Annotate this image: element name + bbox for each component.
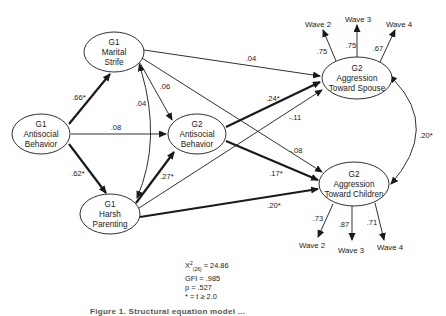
coef-marital-harsh: .04 xyxy=(136,99,147,108)
coef-antisocial-marital: .66* xyxy=(72,93,86,102)
coef-harsh-spouse: -.11 xyxy=(289,113,302,122)
svg-text:Behavior: Behavior xyxy=(181,140,214,149)
coef-marital-children: -.08 xyxy=(289,146,302,155)
svg-text:Behavior: Behavior xyxy=(25,140,58,149)
svg-text:G1: G1 xyxy=(36,120,47,129)
loading-children-wave2-value: .73 xyxy=(313,214,324,223)
svg-text:Toward Spouse: Toward Spouse xyxy=(329,84,386,93)
svg-text:G2: G2 xyxy=(349,170,360,179)
path-harsh-children xyxy=(140,189,318,217)
chi-square-stat: X2(26) = 24.86 xyxy=(185,259,229,274)
node-g2-aggression-toward-spouse: G2 Aggression Toward Spouse xyxy=(322,57,392,99)
node-g1-harsh-parenting: G1 Harsh Parenting xyxy=(80,194,140,234)
coef-antisocial-g2antisocial: .08 xyxy=(111,123,122,132)
loading-spouse-wave2 xyxy=(323,30,336,61)
svg-text:G1: G1 xyxy=(109,38,120,47)
spouse-wave4-label: Wave 4 xyxy=(386,20,413,29)
svg-text:G2: G2 xyxy=(192,120,203,129)
node-g2-antisocial-behavior: G2 Antisocial Behavior xyxy=(168,114,226,154)
svg-text:Aggression: Aggression xyxy=(334,180,375,189)
path-marital-g2antisocial xyxy=(140,63,172,120)
path-g2antisocial-spouse xyxy=(226,82,320,127)
fit-statistics: X2(26) = 24.86 GFI = .985 p = .527 * = t… xyxy=(185,259,229,301)
svg-text:Toward Children: Toward Children xyxy=(324,190,384,199)
loading-spouse-wave4-value: .67 xyxy=(373,44,384,53)
svg-text:Antisocial: Antisocial xyxy=(179,130,214,139)
svg-text:G2: G2 xyxy=(352,64,363,73)
p-value-stat: p = .527 xyxy=(185,283,229,292)
svg-text:G1: G1 xyxy=(105,200,116,209)
coef-harsh-children: .20* xyxy=(267,201,281,210)
coef-marital-g2antisocial: .06 xyxy=(160,82,171,91)
spouse-wave3-label: Wave 3 xyxy=(345,15,371,24)
node-g1-antisocial-behavior: G1 Antisocial Behavior xyxy=(12,114,70,154)
coef-harsh-g2antisocial: .27* xyxy=(160,172,174,181)
coef-g2antisocial-spouse: .24* xyxy=(266,94,280,103)
loading-children-wave4-value: .71 xyxy=(367,218,378,227)
svg-text:Harsh: Harsh xyxy=(99,210,121,219)
svg-text:Strife: Strife xyxy=(104,58,124,67)
children-wave4-label: Wave 4 xyxy=(377,243,404,252)
node-g1-marital-strife: G1 Marital Strife xyxy=(84,32,144,72)
children-wave3-label: Wave 3 xyxy=(338,246,364,255)
loading-spouse-wave2-value: .75 xyxy=(317,47,328,56)
spouse-wave2-label: Wave 2 xyxy=(305,20,331,29)
svg-text:Aggression: Aggression xyxy=(337,74,378,83)
node-g2-aggression-toward-children: G2 Aggression Toward Children xyxy=(319,162,389,206)
significance-note: * = t ≥ 2.0 xyxy=(185,292,229,301)
figure-caption: Figure 1. Structural equation model ... xyxy=(90,307,245,316)
svg-text:Antisocial: Antisocial xyxy=(23,130,58,139)
loading-spouse-wave3-value: .75 xyxy=(346,41,357,50)
path-marital-spouse xyxy=(144,50,320,76)
correlation-spouse-children xyxy=(391,80,416,184)
svg-text:Parenting: Parenting xyxy=(92,220,127,229)
gfi-stat: GFI = .985 xyxy=(185,274,229,283)
children-wave2-label: Wave 2 xyxy=(299,241,325,250)
coef-spouse-children: .20* xyxy=(419,131,433,140)
loading-children-wave3-value: .87 xyxy=(339,220,350,229)
svg-text:Marital: Marital xyxy=(102,48,127,57)
coef-marital-spouse: .04 xyxy=(246,54,257,63)
coef-antisocial-harsh: .62* xyxy=(71,169,85,178)
coef-g2antisocial-children: .17* xyxy=(269,169,283,178)
